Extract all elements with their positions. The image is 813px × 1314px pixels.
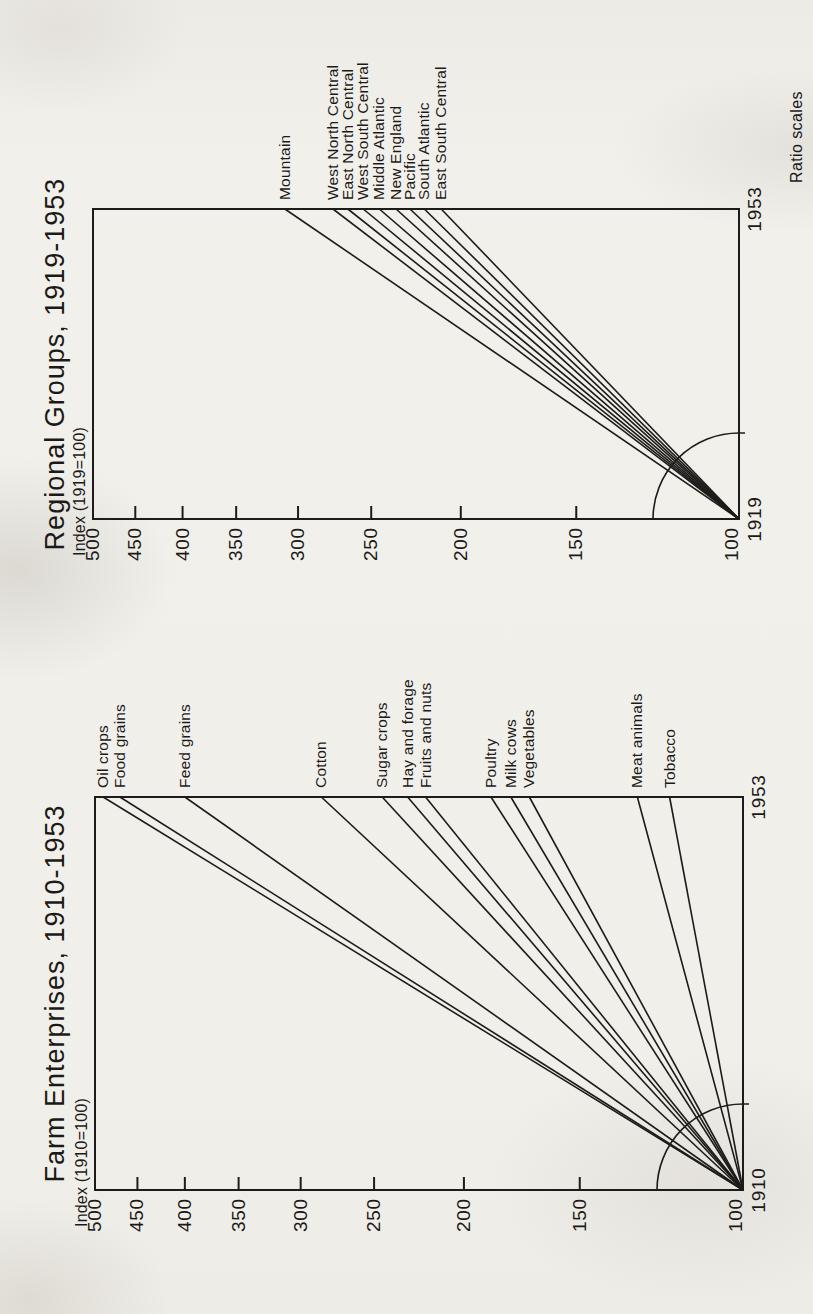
plot-frame — [93, 209, 739, 519]
index-axis-caption: Index (1910=100) — [73, 1098, 90, 1227]
series-label-east-south-central: East South Central — [432, 66, 449, 200]
y-tick-label-100: 100 — [725, 1198, 746, 1232]
series-label-vegetables: Vegetables — [520, 709, 537, 788]
fan-line-feed-grains — [185, 797, 743, 1190]
series-label-west-south-central: West South Central — [354, 62, 371, 200]
y-tick-label-200: 200 — [453, 1198, 474, 1232]
fan-line-west-north-central — [333, 209, 739, 519]
fan-line-mountain — [285, 209, 739, 519]
fan-line-new-england — [396, 209, 739, 519]
series-label-east-north-central: East North Central — [339, 69, 356, 200]
series-label-poultry: Poultry — [482, 738, 499, 788]
chart-title: Farm Enterprises, 1910-1953 — [40, 804, 70, 1182]
farm-enterprises-chart: 100150200250300350400450500Index (1910=1… — [40, 679, 769, 1232]
fan-line-meat-animals — [637, 797, 743, 1190]
x-label-start: 1910 — [748, 1167, 769, 1212]
fan-line-milk-cows — [511, 797, 743, 1190]
y-tick-label-400: 400 — [172, 527, 193, 561]
fan-line-fruits-and-nuts — [426, 797, 743, 1190]
fan-line-oil-crops — [103, 797, 743, 1190]
series-label-sugar-crops: Sugar crops — [373, 702, 390, 788]
y-tick-label-350: 350 — [228, 1198, 249, 1232]
series-label-meat-animals: Meat animals — [628, 693, 645, 788]
series-label-south-atlantic: South Atlantic — [415, 102, 432, 200]
x-label-end: 1953 — [748, 774, 769, 819]
fan-line-food-grains — [120, 797, 743, 1190]
rotated-chart-scan: 100150200250300350400450500Index (1910=1… — [0, 0, 813, 1314]
y-tick-label-200: 200 — [450, 527, 471, 561]
series-label-food-grains: Food grains — [111, 704, 128, 788]
series-label-milk-cows: Milk cows — [502, 719, 519, 788]
series-label-tobacco: Tobacco — [661, 729, 678, 788]
index-axis-caption: Index (1919=100) — [71, 427, 88, 556]
y-tick-label-300: 300 — [287, 527, 308, 561]
y-tick-label-150: 150 — [569, 1198, 590, 1232]
fan-line-vegetables — [529, 797, 743, 1190]
fan-line-sugar-crops — [382, 797, 743, 1190]
series-label-feed-grains: Feed grains — [176, 704, 193, 788]
fan-line-west-south-central — [363, 209, 739, 519]
y-tick-label-100: 100 — [721, 527, 742, 561]
fan-line-pacific — [410, 209, 739, 519]
y-tick-label-300: 300 — [290, 1198, 311, 1232]
x-label-end: 1953 — [744, 186, 765, 231]
fan-line-cotton — [321, 797, 743, 1190]
fan-line-east-north-central — [348, 209, 739, 519]
regional-groups-chart: 100150200250300350400450500Index (1919=1… — [40, 62, 765, 561]
origin-guide-arc — [653, 433, 745, 519]
y-tick-label-250: 250 — [363, 1198, 384, 1232]
y-tick-label-450: 450 — [126, 1198, 147, 1232]
fan-line-middle-atlantic — [379, 209, 739, 519]
y-tick-label-250: 250 — [360, 527, 381, 561]
fan-line-poultry — [491, 797, 743, 1190]
y-tick-label-150: 150 — [565, 527, 586, 561]
x-label-start: 1919 — [744, 496, 765, 541]
fan-line-east-south-central — [441, 209, 739, 519]
fan-line-south-atlantic — [424, 209, 739, 519]
series-label-mountain: Mountain — [276, 135, 293, 200]
y-tick-label-400: 400 — [174, 1198, 195, 1232]
chart-title: Regional Groups, 1919-1953 — [40, 178, 70, 551]
series-label-middle-atlantic: Middle Atlantic — [370, 97, 387, 200]
ratio-scales-note: Ratio scales — [788, 91, 805, 183]
y-tick-label-350: 350 — [225, 527, 246, 561]
series-label-fruits-and-nuts: Fruits and nuts — [417, 682, 434, 788]
series-label-oil-crops: Oil crops — [94, 725, 111, 788]
series-label-cotton: Cotton — [312, 741, 329, 788]
y-tick-label-450: 450 — [124, 527, 145, 561]
fan-line-hay-and-forage — [408, 797, 743, 1190]
series-label-hay-and-forage: Hay and forage — [399, 679, 416, 788]
